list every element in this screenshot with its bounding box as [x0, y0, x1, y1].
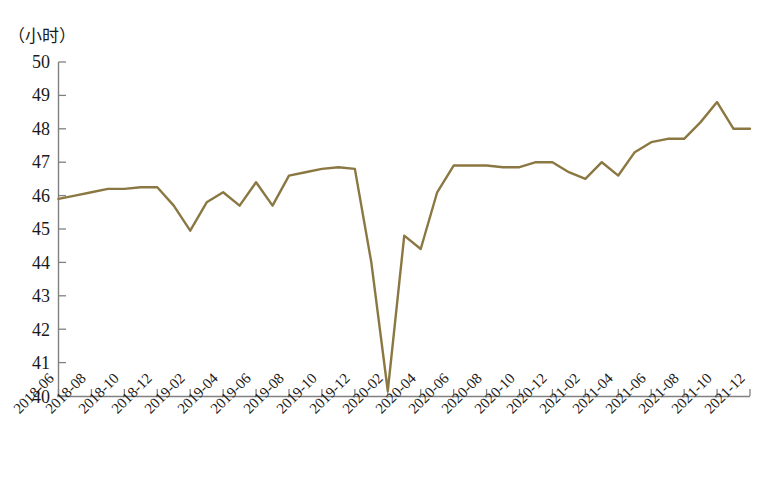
data-series-line: [59, 102, 751, 391]
line-chart: （小时） 50 49 48 47 46 45 44 43 42 41 40: [0, 0, 763, 494]
plot-area: [0, 0, 763, 494]
axes: [58, 62, 750, 397]
y-axis-ticks: [59, 62, 67, 396]
